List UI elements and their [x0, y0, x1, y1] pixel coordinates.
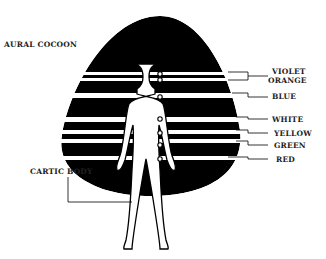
- band-label-red: RED: [276, 155, 295, 164]
- band-label-orange: ORANGE: [268, 76, 307, 85]
- band-label-white: WHITE: [272, 115, 303, 124]
- band-label-violet: VIOLET: [272, 67, 306, 76]
- band-label-green: GREEN: [274, 141, 306, 150]
- band-label-yellow: YELLOW: [274, 129, 312, 138]
- cartic-body-label: CARTIC BODY: [30, 167, 93, 176]
- band-label-blue: BLUE: [272, 92, 296, 101]
- aural-cocoon-label: AURAL COCOON: [4, 40, 77, 49]
